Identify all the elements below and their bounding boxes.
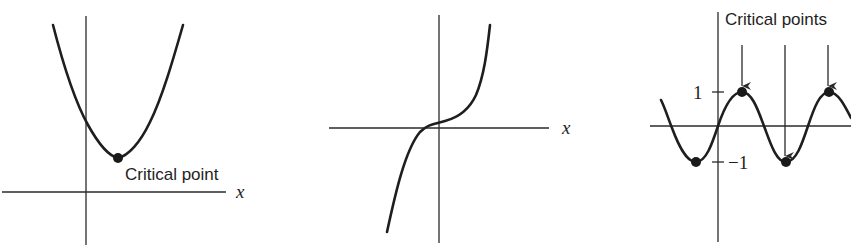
critical-point-marker bbox=[113, 153, 123, 163]
critical-point-max-left bbox=[737, 87, 747, 97]
panel-parabola: Critical point x bbox=[2, 16, 245, 245]
x-axis-label: x bbox=[235, 181, 245, 202]
critical-points-figure: Critical point x x 1 −1 Critical points bbox=[0, 0, 851, 250]
tick-label-minus-one: −1 bbox=[728, 152, 748, 173]
critical-point-label: Critical point bbox=[125, 165, 219, 184]
sine-curve bbox=[661, 92, 851, 162]
critical-points-label: Critical points bbox=[725, 10, 827, 29]
x-axis-label: x bbox=[561, 117, 571, 138]
panel-cubic: x bbox=[329, 15, 571, 243]
critical-point-min-left bbox=[691, 157, 701, 167]
critical-point-min-right bbox=[781, 157, 791, 167]
panel-sine: 1 −1 Critical points bbox=[650, 10, 851, 242]
critical-point-max-right bbox=[824, 87, 834, 97]
parabola-curve bbox=[53, 25, 183, 158]
tick-label-one: 1 bbox=[693, 82, 703, 103]
